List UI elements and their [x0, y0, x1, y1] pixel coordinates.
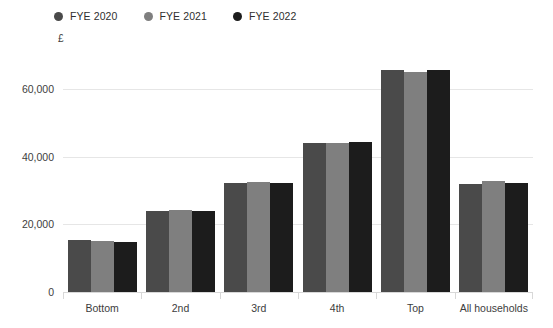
x-axis-tick-mark	[220, 292, 221, 299]
bar[interactable]	[91, 241, 114, 292]
bar-cluster	[63, 55, 141, 292]
bar[interactable]	[303, 143, 326, 292]
legend-item-fye-2020[interactable]: FYE 2020	[54, 10, 118, 22]
x-axis-category-2: 2nd	[141, 292, 219, 322]
x-axis-category-5: Top	[376, 292, 454, 322]
bar-cluster	[455, 55, 533, 292]
y-axis-tick-label: 40,000	[22, 151, 54, 163]
bar-group	[455, 55, 533, 292]
x-axis-tick-label: 2nd	[172, 302, 190, 314]
legend-item-fye-2022[interactable]: FYE 2022	[233, 10, 297, 22]
bar[interactable]	[404, 72, 427, 292]
legend-label: FYE 2021	[160, 10, 208, 22]
bar-cluster	[220, 55, 298, 292]
bar-group	[376, 55, 454, 292]
bar[interactable]	[114, 242, 137, 292]
x-axis-tick-label: All households	[460, 302, 528, 314]
legend-label: FYE 2020	[70, 10, 118, 22]
legend-label: FYE 2022	[249, 10, 297, 22]
x-axis-tick-mark	[63, 292, 64, 299]
x-axis-category-1: Bottom	[63, 292, 141, 322]
circle-marker-icon	[54, 12, 63, 21]
bar[interactable]	[169, 210, 192, 292]
bar-cluster	[141, 55, 219, 292]
bar[interactable]	[247, 182, 270, 292]
y-axis-tick-label: 20,000	[22, 218, 54, 230]
bar[interactable]	[224, 183, 247, 292]
bar[interactable]	[68, 240, 91, 292]
x-axis-tick-label: 3rd	[251, 302, 266, 314]
x-axis-tick-label: Bottom	[86, 302, 119, 314]
x-axis-tick-label: 4th	[330, 302, 345, 314]
bar-cluster	[298, 55, 376, 292]
bar[interactable]	[381, 70, 404, 292]
x-axis-tick-mark	[455, 292, 456, 299]
bar-chart: FYE 2020 FYE 2021 FYE 2022 £ 020,00040,0…	[0, 0, 553, 328]
bar[interactable]	[482, 181, 505, 292]
bar[interactable]	[192, 211, 215, 292]
bar-group	[141, 55, 219, 292]
x-axis-category-3: 3rd	[220, 292, 298, 322]
y-axis-tick-label: 60,000	[22, 83, 54, 95]
bar[interactable]	[146, 211, 169, 292]
x-axis-tick-label: Top	[407, 302, 424, 314]
bar[interactable]	[427, 70, 450, 292]
x-axis-tick-mark	[298, 292, 299, 299]
bar[interactable]	[349, 142, 372, 292]
bar[interactable]	[459, 184, 482, 292]
x-axis: Bottom2nd3rd4thTopAll households	[63, 292, 533, 322]
x-axis-tick-mark	[532, 292, 533, 299]
x-axis-tick-mark	[376, 292, 377, 299]
y-axis-tick-label: 0	[48, 286, 54, 298]
chart-legend: FYE 2020 FYE 2021 FYE 2022	[54, 8, 323, 24]
circle-marker-icon	[233, 12, 242, 21]
bar-group	[298, 55, 376, 292]
plot-area: 020,00040,00060,000	[63, 55, 533, 292]
x-axis-category-6: All households	[455, 292, 533, 322]
bar[interactable]	[270, 183, 293, 292]
circle-marker-icon	[144, 12, 153, 21]
legend-item-fye-2021[interactable]: FYE 2021	[144, 10, 208, 22]
bar-group	[220, 55, 298, 292]
y-axis-unit-label: £	[58, 33, 64, 44]
x-axis-category-4: 4th	[298, 292, 376, 322]
bar-group	[63, 55, 141, 292]
bar[interactable]	[326, 143, 349, 292]
bar-cluster	[376, 55, 454, 292]
bar[interactable]	[505, 183, 528, 292]
bar-groups	[63, 55, 533, 292]
x-axis-tick-mark	[141, 292, 142, 299]
